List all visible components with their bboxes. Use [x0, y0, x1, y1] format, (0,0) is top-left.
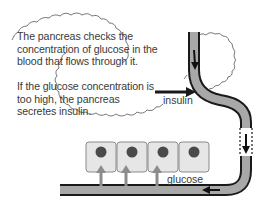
callout-paragraph-2: If the glucose concentration is too high…: [17, 80, 157, 118]
insulin-label: insulin: [163, 94, 193, 106]
cell-3: [148, 142, 178, 172]
cell-4: [179, 142, 209, 172]
glucose-label: glucose: [167, 173, 203, 185]
cell-2: [117, 142, 147, 172]
cells-row: [86, 142, 209, 172]
callout-paragraph-1: The pancreas checks the concentration of…: [17, 30, 177, 68]
